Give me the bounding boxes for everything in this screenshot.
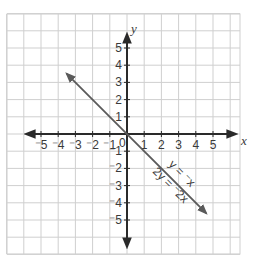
x-tick-label: 3: [175, 138, 182, 152]
coordinate-plane: ⁻5⁻4⁻3⁻2⁻11234554321⁻1⁻2⁻3⁻4⁻5 x y 0 y =…: [0, 0, 256, 262]
origin-label: 0: [119, 136, 126, 150]
y-tick-label: ⁻3: [109, 179, 122, 193]
y-tick-label: 1: [115, 110, 122, 124]
x-tick-label: 5: [210, 138, 217, 152]
y-tick-label: 5: [115, 41, 122, 55]
y-tick-label: ⁻2: [109, 161, 122, 175]
x-tick-label: ⁻3: [69, 138, 82, 152]
y-tick-label: ⁻5: [109, 213, 122, 227]
x-tick-label: ⁻2: [86, 138, 99, 152]
x-tick-label: ⁻5: [35, 138, 48, 152]
x-axis-label: x: [240, 133, 247, 148]
y-tick-label: ⁻4: [109, 196, 122, 210]
y-tick-label: 3: [115, 75, 122, 89]
x-tick-label: 2: [158, 138, 165, 152]
y-axis-label: y: [129, 21, 137, 36]
x-tick-label: ⁻4: [52, 138, 65, 152]
y-tick-label: 4: [115, 58, 122, 72]
x-tick-label: 4: [192, 138, 199, 152]
y-tick-label: 2: [115, 93, 122, 107]
